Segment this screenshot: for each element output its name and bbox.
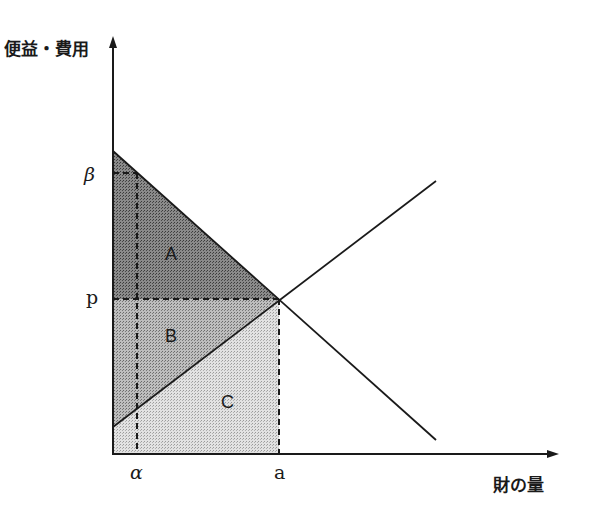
quantity-a-label: a <box>274 461 285 483</box>
y-axis-label: 便益・費用 <box>4 39 89 59</box>
beta-label: β <box>83 163 95 185</box>
area-a-label: A <box>165 244 177 264</box>
alpha-label: α <box>130 461 143 483</box>
area-b-label: B <box>165 326 177 346</box>
y-axis-arrow-icon <box>109 36 117 48</box>
x-axis-arrow-icon <box>547 450 559 458</box>
area-c-label: C <box>221 392 234 412</box>
price-label: p <box>86 286 98 308</box>
surplus-diagram: 便益・費用 財の量 β p α a A B C <box>0 0 595 517</box>
x-axis-label: 財の量 <box>492 475 544 495</box>
